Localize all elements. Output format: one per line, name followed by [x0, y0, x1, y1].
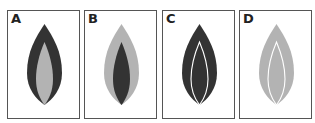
panel-d: D — [239, 10, 312, 119]
outer-leaf-shape — [259, 24, 294, 105]
panel-c: C — [162, 10, 235, 119]
panel-b: B — [84, 10, 157, 119]
leaf-diagram-d — [240, 11, 313, 120]
leaf-diagram-b — [85, 11, 158, 120]
leaf-diagram-a — [8, 11, 81, 120]
panel-a: A — [7, 10, 80, 119]
leaf-diagram-c — [163, 11, 236, 120]
outer-leaf-shape — [182, 24, 217, 105]
